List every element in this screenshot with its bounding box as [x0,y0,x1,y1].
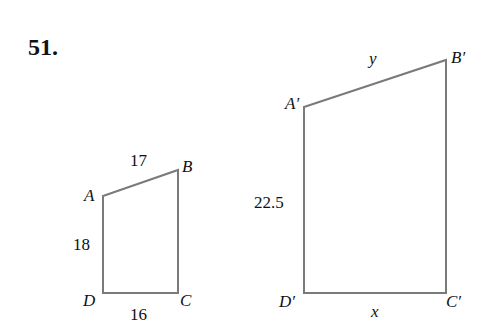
side-label-d-prime-c-prime: x [370,302,379,321]
similar-quadrilaterals-diagram: 51. A B C D 17 18 16 A′ B′ C′ D′ y 22.5 … [0,0,503,333]
side-label-a-prime-d-prime: 22.5 [254,193,284,212]
vertex-label-d: D [82,291,96,310]
quadrilateral-abcd-outline [103,170,178,293]
vertex-label-a: A [83,186,95,205]
problem-number: 51. [28,34,58,60]
vertex-label-d-prime: D′ [278,292,295,311]
vertex-label-c: C [180,291,192,310]
side-label-ad: 18 [73,235,90,254]
side-label-ab: 17 [130,151,148,170]
vertex-label-c-prime: C′ [446,292,461,311]
vertex-label-b: B [182,157,193,176]
quadrilateral-abcd-prime-outline [304,60,446,293]
vertex-label-a-prime: A′ [284,94,299,113]
diagram-svg: 51. A B C D 17 18 16 A′ B′ C′ D′ y 22.5 … [0,0,503,333]
quadrilateral-abcd: A B C D 17 18 16 [73,151,193,324]
side-label-dc: 16 [130,305,147,324]
side-label-a-prime-b-prime: y [367,49,377,68]
vertex-label-b-prime: B′ [451,48,465,67]
quadrilateral-abcd-prime: A′ B′ C′ D′ y 22.5 x [254,48,465,321]
